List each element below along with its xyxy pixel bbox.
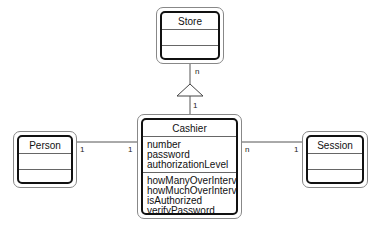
operations-section — [308, 170, 362, 184]
attributes-section: number password authorizationLevel — [143, 137, 236, 173]
class-cashier[interactable]: Cashier number password authorizationLev… — [137, 114, 242, 219]
multiplicity-cashier-person: 1 — [128, 146, 132, 154]
operations-section — [19, 170, 71, 184]
attribute: authorizationLevel — [147, 160, 232, 170]
attributes-section — [308, 154, 362, 170]
attributes-section — [19, 154, 71, 170]
operations-section: howManyOverInterval howMuchOverInterval … — [143, 173, 236, 215]
attributes-section — [162, 30, 218, 46]
multiplicity-cashier-store: 1 — [193, 102, 197, 110]
multiplicity-cashier-session: n — [245, 146, 249, 154]
class-name: Store — [162, 13, 218, 30]
class-person[interactable]: Person — [13, 131, 77, 188]
class-name: Person — [19, 137, 71, 154]
multiplicity-person: 1 — [80, 146, 84, 154]
class-name: Session — [308, 137, 362, 154]
operation: verifyPassword — [147, 206, 232, 215]
class-store[interactable]: Store — [156, 7, 224, 64]
multiplicity-session: 1 — [294, 146, 298, 154]
operations-section — [162, 46, 218, 60]
class-session[interactable]: Session — [302, 131, 368, 188]
multiplicity-store: n — [195, 68, 199, 76]
triangle-icon — [177, 84, 203, 96]
class-name: Cashier — [143, 120, 236, 137]
